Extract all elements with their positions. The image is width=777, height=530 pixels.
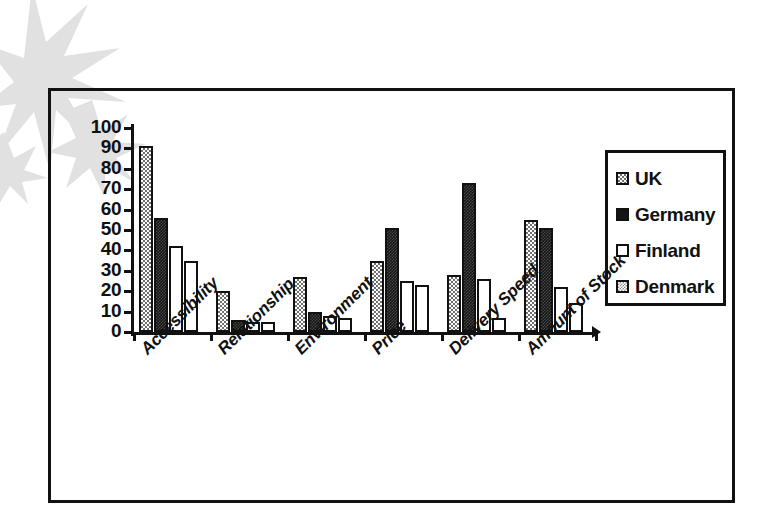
x-axis-tick [133, 332, 136, 341]
bar [415, 285, 429, 332]
y-axis-tick-mark [124, 229, 131, 232]
x-axis-tick [210, 332, 213, 341]
legend-item-denmark: Denmark [616, 268, 723, 304]
x-axis-tick [595, 332, 598, 341]
y-axis-tick-label: 100 [91, 117, 121, 136]
y-axis-tick-label: 10 [101, 301, 121, 320]
x-axis-tick [287, 332, 290, 341]
legend-swatch-uk [616, 172, 629, 185]
legend-item-germany: Germany [616, 196, 723, 232]
x-axis-tick [518, 332, 521, 341]
bar [370, 261, 384, 332]
y-axis-tick-mark [124, 311, 131, 314]
legend-label-germany: Germany [635, 205, 715, 224]
y-axis-tick-mark [124, 188, 131, 191]
bar [447, 275, 461, 332]
y-axis-tick-label: 0 [111, 321, 121, 340]
y-axis-tick-mark [124, 290, 131, 293]
legend-swatch-denmark [616, 280, 629, 293]
legend-label-denmark: Denmark [635, 277, 714, 296]
bar [139, 146, 153, 332]
y-axis-tick-label: 60 [101, 199, 121, 218]
x-axis-tick [364, 332, 367, 341]
legend-swatch-germany [616, 208, 629, 221]
y-axis-tick-label: 30 [101, 260, 121, 279]
y-axis-tick-mark [124, 249, 131, 252]
y-axis-tick-label: 40 [101, 239, 121, 258]
y-axis-tick-label: 70 [101, 178, 121, 197]
legend-label-finland: Finland [635, 241, 700, 260]
y-axis-tick-label: 50 [101, 219, 121, 238]
bar [216, 291, 230, 332]
y-axis-tick-mark [124, 168, 131, 171]
y-axis-tick-label: 90 [101, 137, 121, 156]
chart-legend: UK Germany Finland Denmark [605, 150, 726, 306]
y-axis-tick-mark [124, 209, 131, 212]
y-axis-tick-mark [124, 127, 131, 130]
y-axis-ticks: 0102030405060708090100 [0, 0, 131, 340]
legend-label-uk: UK [635, 169, 662, 188]
y-axis-tick-mark [124, 331, 131, 334]
legend-item-finland: Finland [616, 232, 723, 268]
y-axis-tick-mark [124, 147, 131, 150]
y-axis-tick-mark [124, 270, 131, 273]
legend-item-uk: UK [616, 160, 723, 196]
y-axis-tick-label: 80 [101, 158, 121, 177]
bar-group [364, 128, 441, 332]
y-axis-tick-label: 20 [101, 280, 121, 299]
x-axis-tick [441, 332, 444, 341]
bar [462, 183, 476, 332]
